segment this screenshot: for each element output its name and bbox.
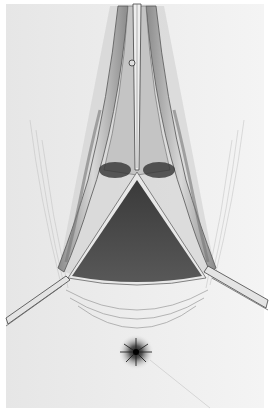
- surgical-illustration: [0, 0, 274, 416]
- left-recess: [99, 162, 131, 178]
- right-recess: [143, 162, 175, 178]
- illustration-canvas: [0, 0, 274, 416]
- orifice: [118, 334, 154, 370]
- suture-knot-icon: [129, 60, 135, 66]
